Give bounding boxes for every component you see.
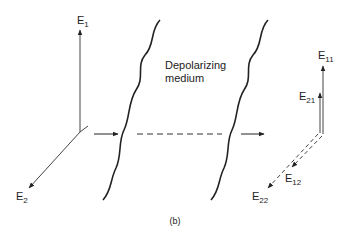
e11-label: E11 [318,49,334,64]
e12-label: E12 [285,172,302,187]
e2-arrow [29,132,80,188]
e22-label: E22 [252,190,269,205]
output-field-components [268,66,323,188]
input-field-axes [29,30,88,188]
medium-label-line1: Depolarizing [165,59,226,71]
e12-arrow [292,136,322,167]
e1-label: E1 [77,14,89,29]
medium-boundary-right [211,20,268,200]
e21-label: E21 [299,90,316,105]
figure-caption: (b) [170,216,181,226]
medium-label-line2: medium [165,72,204,84]
depolarization-diagram: E1 E2 Depolarizing medium E11 E21 E12 E2… [0,0,350,237]
e2-label: E2 [16,190,28,205]
diagram-canvas: E1 E2 Depolarizing medium E11 E21 E12 E2… [0,0,350,237]
medium-boundary-left [103,20,160,200]
